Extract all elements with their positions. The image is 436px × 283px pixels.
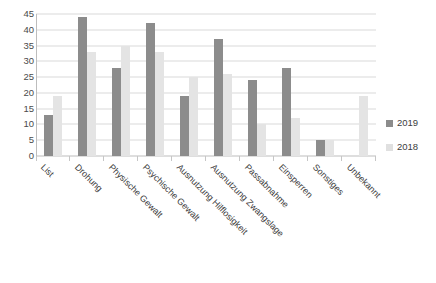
x-tick	[172, 156, 206, 161]
bar-2018[interactable]	[53, 96, 62, 156]
bar-2019[interactable]	[112, 68, 121, 156]
bar-group	[172, 14, 206, 156]
y-axis: 454035302520151050	[8, 8, 34, 158]
x-tick	[36, 156, 70, 161]
bar-group	[206, 14, 240, 156]
bar-2018[interactable]	[189, 77, 198, 156]
legend-label: 2019	[397, 118, 418, 128]
x-tick	[104, 156, 138, 161]
bar-2019[interactable]	[78, 17, 87, 156]
y-tick-label: 30	[23, 57, 34, 67]
x-tick	[70, 156, 104, 161]
y-tick-label: 20	[23, 88, 34, 98]
x-axis-label: Psychische Gewalt	[141, 162, 202, 223]
y-tick-label: 40	[23, 25, 34, 35]
x-axis-label: Sonstiges	[311, 162, 346, 197]
legend-swatch-icon	[386, 120, 393, 127]
bar-group	[274, 14, 308, 156]
legend-item-2018[interactable]: 2018	[386, 142, 434, 152]
bar-2019[interactable]	[282, 68, 291, 156]
x-tick	[240, 156, 274, 161]
legend-swatch-icon	[386, 144, 393, 151]
bar-2018[interactable]	[359, 96, 368, 156]
bar-group	[240, 14, 274, 156]
y-tick-label: 0	[29, 151, 34, 161]
chart-legend: 2019 2018	[386, 118, 434, 166]
figure-caption	[6, 279, 430, 283]
x-tick	[138, 156, 172, 161]
x-axis-label: List	[39, 162, 56, 179]
y-tick-label: 10	[23, 120, 34, 130]
bar-2018[interactable]	[223, 74, 232, 156]
y-tick-label: 45	[23, 9, 34, 19]
bar-2019[interactable]	[146, 23, 155, 156]
bars-layer	[36, 14, 376, 156]
bar-chart: 454035302520151050 ListDrohungPhysische …	[0, 0, 436, 283]
bar-2019[interactable]	[44, 115, 53, 156]
legend-label: 2018	[397, 142, 418, 152]
bar-2018[interactable]	[87, 52, 96, 156]
bar-2019[interactable]	[214, 39, 223, 156]
bar-2019[interactable]	[248, 80, 257, 156]
bar-2019[interactable]	[180, 96, 189, 156]
bar-group	[104, 14, 138, 156]
x-axis-labels: ListDrohungPhysische GewaltPsychische Ge…	[36, 162, 376, 257]
y-tick-label: 35	[23, 41, 34, 51]
bar-2018[interactable]	[257, 124, 266, 156]
bar-2018[interactable]	[291, 118, 300, 156]
y-tick-label: 5	[29, 135, 34, 145]
bar-2018[interactable]	[325, 140, 334, 156]
bar-2018[interactable]	[155, 52, 164, 156]
x-axis-ticks	[36, 156, 376, 161]
x-axis-label: Unbekannt	[345, 162, 383, 200]
y-tick-label: 15	[23, 104, 34, 114]
y-tick-label: 25	[23, 72, 34, 82]
bar-group	[36, 14, 70, 156]
bar-group	[308, 14, 342, 156]
bar-2018[interactable]	[121, 46, 130, 156]
x-tick	[308, 156, 342, 161]
plot-area: 454035302520151050 ListDrohungPhysische …	[0, 0, 436, 283]
x-tick	[206, 156, 240, 161]
x-tick	[274, 156, 308, 161]
x-tick	[342, 156, 376, 161]
bar-2019[interactable]	[316, 140, 325, 156]
bar-group	[70, 14, 104, 156]
bar-group	[138, 14, 172, 156]
x-axis-label: Drohung	[73, 162, 104, 193]
bar-group	[342, 14, 376, 156]
legend-item-2019[interactable]: 2019	[386, 118, 434, 128]
